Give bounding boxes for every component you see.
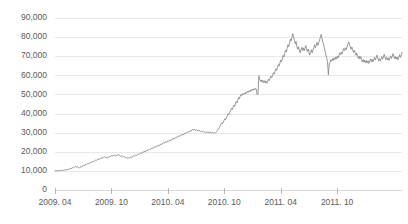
y-axis-tick-label: 40,000: [21, 108, 47, 118]
y-axis-tick-label: 70,000: [21, 50, 47, 60]
y-axis-tick-label: 50,000: [21, 89, 47, 99]
x-axis-labels-group: 2009. 042009. 102010. 042010. 102011. 04…: [38, 197, 353, 207]
x-axis-tick-label: 2010. 04: [151, 197, 184, 207]
x-axis-tick-label: 2011. 10: [321, 197, 354, 207]
y-axis-tick-label: 80,000: [21, 31, 47, 41]
y-axis-tick-label: 60,000: [21, 70, 47, 80]
y-axis-tick-label: 0: [42, 184, 47, 194]
x-axis-group: [55, 188, 402, 194]
y-axis-tick-label: 10,000: [21, 165, 47, 175]
line-chart: 010,00020,00030,00040,00050,00060,00070,…: [0, 0, 408, 224]
chart-canvas: 010,00020,00030,00040,00050,00060,00070,…: [0, 0, 408, 224]
x-axis-tick-label: 2011. 04: [264, 197, 297, 207]
series-line: [55, 34, 402, 171]
y-axis-tick-label: 90,000: [21, 12, 47, 22]
x-axis-tick-label: 2009. 04: [38, 197, 71, 207]
y-axis-labels-group: 010,00020,00030,00040,00050,00060,00070,…: [21, 12, 47, 194]
gridlines-group: [55, 19, 402, 172]
x-axis-tick-label: 2010. 10: [208, 197, 241, 207]
y-axis-tick-label: 20,000: [21, 146, 47, 156]
x-axis-tick-label: 2009. 10: [95, 197, 128, 207]
y-axis-tick-label: 30,000: [21, 127, 47, 137]
series-group: [55, 34, 402, 171]
